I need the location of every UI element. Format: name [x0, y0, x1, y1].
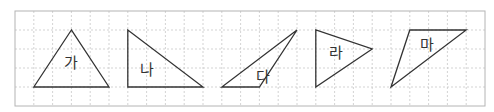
triangle-ra-label: 라 — [329, 44, 343, 62]
triangle-na: 나 — [128, 30, 203, 87]
triangle-da: 다 — [222, 30, 297, 87]
triangle-ra: 라 — [316, 30, 372, 87]
grid-lines — [15, 11, 485, 106]
triangle-grid-diagram: 가 나 다 라 마 — [0, 0, 494, 112]
grid-border — [15, 11, 485, 106]
triangle-da-label: 다 — [256, 68, 270, 86]
triangle-ga: 가 — [34, 30, 109, 87]
triangles: 가 나 다 라 마 — [34, 30, 466, 87]
triangle-ma-label: 마 — [420, 36, 434, 54]
triangle-ra-shape — [316, 30, 372, 87]
triangle-ma: 마 — [391, 30, 466, 87]
triangle-na-label: 나 — [140, 61, 154, 79]
triangle-ga-label: 가 — [64, 54, 78, 72]
